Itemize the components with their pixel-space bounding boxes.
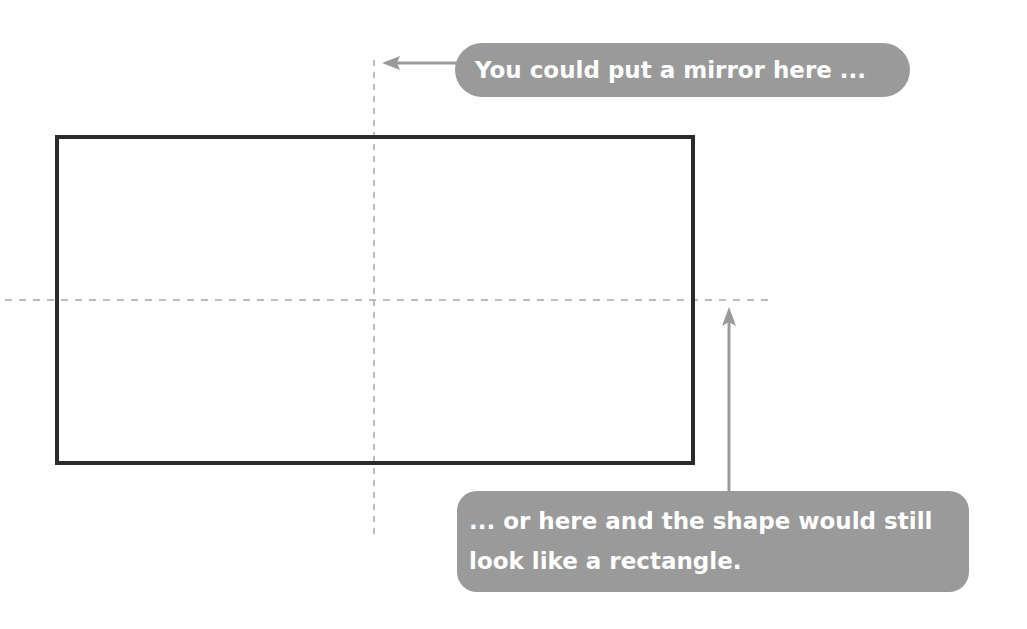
callout-line-2: look like a rectangle.	[469, 541, 969, 581]
callout-line-1: ... or here and the shape would still	[469, 501, 969, 541]
arrow-left-icon	[382, 56, 460, 70]
arrow-up-icon	[722, 307, 736, 495]
callout-mirror-vertical: You could put a mirror here ...	[455, 43, 910, 97]
symmetry-diagram: You could put a mirror here ... ... or h…	[0, 0, 1027, 629]
callout-mirror-horizontal: ... or here and the shape would still lo…	[457, 491, 969, 592]
